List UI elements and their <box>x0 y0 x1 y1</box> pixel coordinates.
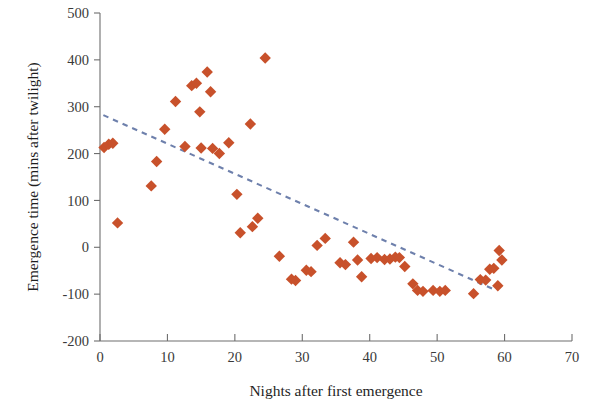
data-point-marker <box>202 66 213 77</box>
data-point-marker <box>348 236 359 247</box>
y-axis-title-group: Emergence time (mins after twilight) <box>24 62 42 292</box>
x-tick-label: 10 <box>160 349 175 365</box>
data-point-marker <box>194 106 205 117</box>
data-point-marker <box>170 96 181 107</box>
x-tick-label: 60 <box>497 349 512 365</box>
data-point-marker <box>311 240 322 251</box>
data-point-marker <box>205 86 216 97</box>
x-tick-label: 20 <box>228 349 243 365</box>
y-axis-title: Emergence time (mins after twilight) <box>24 62 42 292</box>
plot-canvas: -200-1000100200300400500010203040506070N… <box>0 0 611 420</box>
data-point-marker <box>399 261 410 272</box>
data-point-marker <box>159 124 170 135</box>
y-tick-label: -100 <box>62 286 89 302</box>
data-point-marker <box>468 288 479 299</box>
y-tick-label: 100 <box>67 193 89 209</box>
data-point-marker <box>274 250 285 261</box>
x-tick-label: 0 <box>96 349 103 365</box>
data-point-marker <box>493 245 504 256</box>
y-tick-label: 0 <box>82 239 89 255</box>
y-tick-label: 200 <box>67 146 89 162</box>
x-tick-label: 50 <box>430 349 445 365</box>
data-point-marker <box>247 221 258 232</box>
data-point-marker <box>195 142 206 153</box>
x-axis-title: Nights after first emergence <box>249 382 422 399</box>
y-tick-label: 500 <box>67 5 89 21</box>
scatter-plot-figure: -200-1000100200300400500010203040506070N… <box>0 0 611 420</box>
y-tick-label: -200 <box>62 333 89 349</box>
data-point-marker <box>146 180 157 191</box>
data-point-marker <box>235 227 246 238</box>
data-point-marker <box>231 189 242 200</box>
data-point-marker <box>245 118 256 129</box>
y-tick-label: 300 <box>67 99 89 115</box>
trend-line <box>103 115 495 290</box>
data-point-marker <box>260 52 271 63</box>
data-point-marker <box>112 217 123 228</box>
data-point-marker <box>151 156 162 167</box>
x-tick-label: 40 <box>362 349 377 365</box>
x-tick-label: 70 <box>565 349 580 365</box>
y-tick-label: 400 <box>67 52 89 68</box>
data-point-marker <box>492 280 503 291</box>
data-point-marker <box>223 137 234 148</box>
data-point-marker <box>356 271 367 282</box>
data-point-marker <box>252 213 263 224</box>
data-point-marker <box>320 233 331 244</box>
data-point-marker <box>352 254 363 265</box>
data-point-marker <box>496 254 507 265</box>
x-tick-label: 30 <box>295 349 310 365</box>
